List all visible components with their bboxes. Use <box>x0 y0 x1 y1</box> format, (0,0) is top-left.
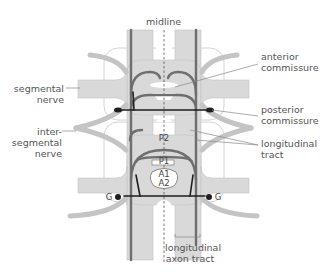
posterior-commissure-label-line1: posterior <box>261 104 319 115</box>
longitudinal-tract-label-line1: longitudinal <box>261 138 317 149</box>
intersegmental-nerve-label-line2: segmental <box>4 137 62 148</box>
intersegmental-nerve-label-line1: inter- <box>4 126 62 137</box>
longitudinal-axon-tract-label-line2: axon tract <box>165 253 215 264</box>
segmental-nerve-label: segmental nerve <box>6 83 64 105</box>
neuron-a2-label: A2 <box>156 178 172 188</box>
anterior-commissure-label: anterior commissure <box>261 51 319 73</box>
intersegmental-nerve-label-line3: nerve <box>4 148 62 159</box>
midline-label: midline <box>146 16 181 27</box>
intersegmental-nerve-label: inter- segmental nerve <box>4 126 62 159</box>
anterior-commissure-label-line1: anterior <box>261 51 319 62</box>
neuron-p1-label: P1 <box>156 156 172 166</box>
neuron-g-left-label: G <box>104 192 114 202</box>
posterior-commissure-label-line2: commissure <box>261 115 319 126</box>
longitudinal-tract-label: longitudinal tract <box>261 138 317 160</box>
segmental-nerve-label-line2: nerve <box>6 94 64 105</box>
neuron-g-right-label: G <box>213 192 223 202</box>
longitudinal-tract-label-line2: tract <box>261 149 317 160</box>
neuron-p2-label: P2 <box>156 133 172 143</box>
longitudinal-axon-tract-label-line1: longitudinal <box>165 242 215 253</box>
posterior-commissure-label: posterior commissure <box>261 104 319 126</box>
segmental-nerve-label-line1: segmental <box>6 83 64 94</box>
longitudinal-axon-tract-label: longitudinal axon tract <box>165 242 215 264</box>
anterior-commissure-label-line2: commissure <box>261 62 319 73</box>
